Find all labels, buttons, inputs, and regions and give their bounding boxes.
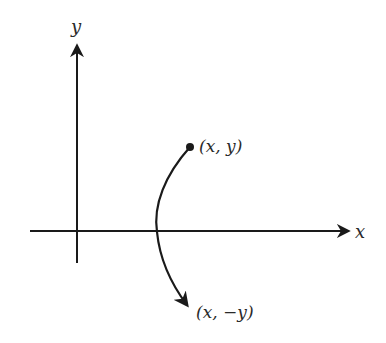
point-dot bbox=[186, 143, 194, 151]
point-label-reflected: (x, −y) bbox=[196, 302, 254, 322]
reflection-diagram: y x (x, y) (x, −y) bbox=[0, 0, 386, 343]
x-axis-label: x bbox=[355, 221, 365, 242]
point-label-original: (x, y) bbox=[199, 136, 242, 156]
y-axis-label: y bbox=[70, 16, 82, 37]
reflection-arc bbox=[156, 147, 190, 305]
